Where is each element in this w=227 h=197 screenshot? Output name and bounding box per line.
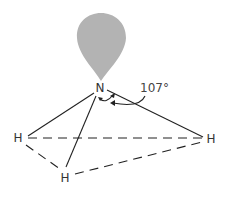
atom-h-right-label: H (206, 132, 215, 146)
bond-n-h-bottom (66, 96, 96, 167)
atom-h-left-label: H (13, 131, 22, 145)
atom-h-bottom-label: H (60, 171, 69, 185)
bond-n-h-right (107, 90, 203, 137)
bond-n-h-left (28, 93, 94, 136)
dashed-edge-left-bottom (26, 145, 60, 169)
bond-angle-label: 107° (140, 81, 169, 95)
dashed-edge-bottom-right (75, 142, 202, 174)
nh3-diagram: N H H H 107° (0, 0, 227, 197)
angle-pointer-arrow (110, 96, 145, 106)
lone-pair-lobe (77, 13, 126, 81)
atom-n-label: N (96, 81, 105, 95)
